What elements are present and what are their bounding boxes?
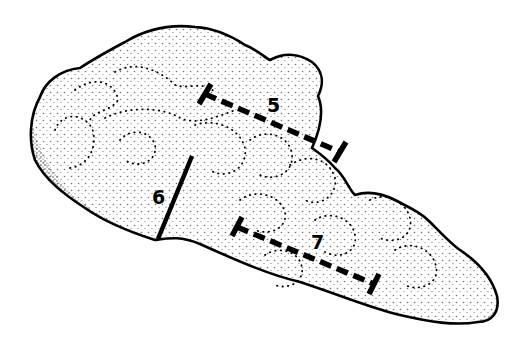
label-6: 6 (152, 188, 165, 207)
stippled-mass-figure (0, 0, 530, 346)
stipple-texture (0, 0, 530, 346)
label-5: 5 (267, 96, 280, 115)
label-7: 7 (311, 233, 324, 252)
